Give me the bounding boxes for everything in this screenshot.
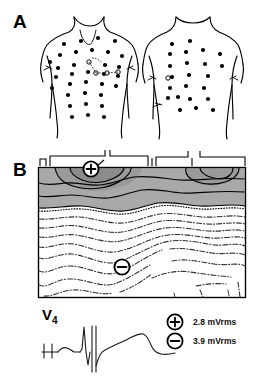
anterior-electrodes-filled (48, 36, 124, 119)
legend-negative-value: 3.9 mVrms (193, 336, 236, 346)
posterior-electrodes-open (166, 76, 170, 80)
legend-positive-symbol (167, 314, 182, 329)
panel-a-label: A (13, 11, 27, 32)
ecg-trace-lead-v4 (42, 326, 175, 372)
legend-negative-symbol (167, 333, 182, 348)
map-minimum-marker (114, 259, 129, 274)
legend-positive-value: 2.8 mVrms (193, 317, 236, 327)
isopotential-contour-map (39, 168, 246, 298)
posterior-torso-outline (143, 17, 244, 139)
figure-root: A (0, 0, 255, 384)
lead-label-subscript: 4 (52, 315, 58, 326)
lead-label-letter: V (42, 306, 52, 323)
posterior-electrodes-filled (166, 39, 224, 112)
panel-b-label: B (13, 159, 27, 180)
lead-label-v4: V4 (42, 306, 58, 326)
region-brackets (40, 150, 245, 166)
